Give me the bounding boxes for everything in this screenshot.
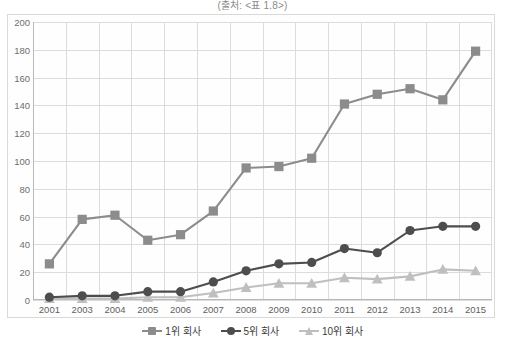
data-point [340, 99, 349, 108]
x-tick-label: 2007 [203, 304, 224, 315]
x-tick-label: 2009 [268, 304, 289, 315]
data-point [45, 259, 54, 268]
data-point [373, 248, 382, 257]
data-point [471, 222, 480, 231]
chart-legend: 1위 회사 5위 회사 10위 회사 [0, 323, 505, 338]
y-tick-label: 120 [14, 128, 30, 139]
x-tick-label: 2006 [170, 304, 191, 315]
chart-title: (출처: <표 1.8>) [0, 0, 505, 12]
data-point [176, 287, 185, 296]
data-point [45, 293, 54, 302]
data-point [438, 95, 447, 104]
data-point [307, 154, 316, 163]
data-point [242, 266, 251, 275]
legend-label: 10위 회사 [322, 323, 363, 338]
data-point [110, 211, 119, 220]
y-tick-label: 140 [14, 100, 30, 111]
y-tick-label: 200 [14, 17, 30, 28]
series-1 [45, 47, 480, 269]
data-point [307, 258, 316, 267]
y-tick-label: 40 [19, 239, 30, 250]
x-tick-label: 2013 [399, 304, 420, 315]
y-tick-label: 100 [14, 156, 30, 167]
data-point [340, 244, 349, 253]
x-tick-label: 2014 [432, 304, 453, 315]
x-tick-label: 2004 [104, 304, 125, 315]
y-tick-label: 80 [19, 183, 30, 194]
data-point [78, 291, 87, 300]
data-point [209, 206, 218, 215]
legend-item-3[interactable]: 10위 회사 [299, 323, 363, 338]
x-tick-label: 2005 [137, 304, 158, 315]
x-tick-label: 2001 [39, 304, 60, 315]
data-point [405, 84, 414, 93]
x-tick-label: 2015 [465, 304, 486, 315]
data-point [143, 236, 152, 245]
legend-marker-triangle-icon [299, 326, 319, 336]
data-point [110, 291, 119, 300]
data-point [438, 222, 447, 231]
data-point [471, 47, 480, 56]
legend-item-1[interactable]: 1위 회사 [142, 323, 200, 338]
legend-item-2[interactable]: 5위 회사 [221, 323, 279, 338]
series-2 [45, 222, 480, 302]
y-axis-tick-labels: 020406080100120140160180200 [8, 22, 30, 300]
x-axis-tick-labels: 2001200320042005200620072008200920102011… [33, 304, 492, 320]
series-plot [33, 22, 492, 300]
y-tick-label: 160 [14, 72, 30, 83]
x-tick-label: 2011 [334, 304, 354, 315]
data-point [176, 230, 185, 239]
y-tick-label: 180 [14, 44, 30, 55]
legend-marker-square-icon [142, 326, 162, 336]
data-point [405, 226, 414, 235]
series-3 [44, 264, 481, 303]
data-point [209, 277, 218, 286]
gridline [33, 300, 492, 301]
data-point [242, 163, 251, 172]
data-point [143, 287, 152, 296]
y-tick-label: 0 [25, 295, 30, 306]
x-tick-label: 2008 [236, 304, 257, 315]
chart-figure: (출처: <표 1.8>) 02040608010012014016018020… [0, 0, 505, 340]
legend-label: 1위 회사 [165, 323, 200, 338]
data-point [78, 215, 87, 224]
x-tick-label: 2012 [367, 304, 388, 315]
data-point [274, 162, 283, 171]
y-tick-label: 20 [19, 267, 30, 278]
x-tick-label: 2003 [72, 304, 93, 315]
legend-label: 5위 회사 [244, 323, 279, 338]
data-point [373, 90, 382, 99]
legend-marker-circle-icon [221, 326, 241, 336]
y-tick-label: 60 [19, 211, 30, 222]
series-line [49, 226, 475, 297]
plot-area [33, 22, 492, 300]
data-point [274, 259, 283, 268]
x-tick-label: 2010 [301, 304, 322, 315]
